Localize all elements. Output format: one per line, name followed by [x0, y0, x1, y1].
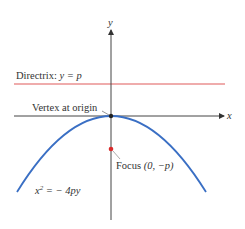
vertex-point — [109, 114, 113, 118]
equation-rhs: = − 4py — [43, 185, 81, 196]
directrix-label-prefix: Directrix: — [16, 70, 59, 81]
vertex-label: Vertex at origin — [32, 102, 98, 113]
vertex-leader-line — [102, 111, 109, 115]
directrix-label-equation: y = p — [58, 70, 81, 81]
focus-label-prefix: Focus — [116, 160, 144, 171]
parabola-diagram: y x Directrix: y = p Vertex at origin Fo… — [0, 0, 245, 229]
focus-leader-line — [113, 151, 120, 159]
focus-label-coords: (0, −p) — [144, 160, 174, 172]
curve-equation-label: x2 = − 4py — [34, 184, 81, 196]
y-axis-label: y — [107, 17, 113, 28]
focus-label: Focus (0, −p) — [116, 160, 174, 172]
directrix-label: Directrix: y = p — [16, 70, 82, 81]
x-axis-label: x — [226, 110, 232, 121]
focus-point — [109, 147, 114, 152]
